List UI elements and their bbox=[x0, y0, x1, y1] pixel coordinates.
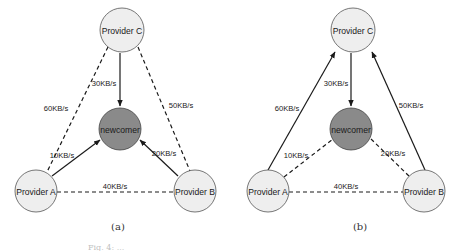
provider-a-label: Provider A bbox=[248, 187, 288, 197]
edge-label-b-c: 50KB/s bbox=[399, 101, 424, 110]
node-provider-a: Provider A bbox=[247, 170, 289, 212]
node-provider-a: Provider A bbox=[15, 170, 57, 212]
edge-label-b-newcomer: 20KB/s bbox=[381, 149, 406, 158]
edge-label-c-newcomer: 30KB/s bbox=[92, 79, 117, 88]
edge-label-a-b: 40KB/s bbox=[103, 182, 128, 191]
edge-label-a-c: 60KB/s bbox=[44, 104, 69, 113]
provider-a-label: Provider A bbox=[16, 187, 56, 197]
node-newcomer: newcomer bbox=[330, 108, 372, 150]
provider-c-label: Provider C bbox=[333, 26, 374, 36]
provider-c-label: Provider C bbox=[102, 26, 143, 36]
panel-b: Provider C newcomer Provider A Provider … bbox=[247, 8, 445, 232]
figure-caption: Fig. 4: ... bbox=[88, 243, 388, 251]
node-provider-c: Provider C bbox=[100, 8, 144, 52]
edge-label-b-newcomer: 20KB/s bbox=[152, 149, 177, 158]
node-provider-c: Provider C bbox=[331, 8, 375, 52]
node-provider-b: Provider B bbox=[403, 170, 445, 212]
edge-b-to-newcomer-arrow bbox=[140, 140, 178, 176]
panel-a: Provider C newcomer Provider A Provider … bbox=[15, 8, 216, 232]
edge-label-a-newcomer: 10KB/s bbox=[284, 151, 309, 160]
panel-a-label: (a) bbox=[111, 221, 125, 232]
node-newcomer: newcomer bbox=[99, 108, 141, 150]
edge-label-b-c: 50KB/s bbox=[169, 101, 194, 110]
edge-b-newcomer-dashed bbox=[371, 139, 410, 177]
newcomer-label: newcomer bbox=[331, 125, 371, 135]
panel-b-label: (b) bbox=[353, 221, 367, 232]
newcomer-label: newcomer bbox=[100, 125, 140, 135]
provider-b-label: Provider B bbox=[404, 187, 444, 197]
edge-label-a-b: 40KB/s bbox=[334, 182, 359, 191]
edge-label-c-newcomer: 30KB/s bbox=[324, 79, 349, 88]
diagram-canvas: Provider C newcomer Provider A Provider … bbox=[0, 0, 456, 251]
edge-label-a-newcomer: 10KB/s bbox=[50, 151, 75, 160]
provider-b-label: Provider B bbox=[175, 187, 215, 197]
edge-label-a-c: 60KB/s bbox=[275, 104, 300, 113]
node-provider-b: Provider B bbox=[174, 170, 216, 212]
